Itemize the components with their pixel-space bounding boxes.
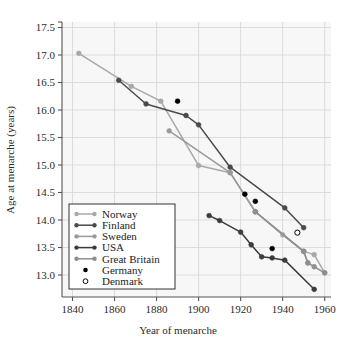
y-tick-label-8: 17.0	[36, 49, 56, 61]
legend-marker-left	[74, 245, 78, 249]
x-tick-label-3: 1900	[188, 303, 211, 315]
legend-marker-right	[92, 257, 96, 261]
data-point	[312, 252, 317, 257]
data-point	[175, 99, 180, 104]
data-point	[196, 122, 201, 127]
legend-marker-right	[92, 234, 96, 238]
data-point	[312, 287, 317, 292]
legend-label: Germany	[102, 264, 143, 276]
menarche-age-line-chart: 13.013.514.014.515.015.516.016.517.017.5…	[0, 0, 356, 347]
legend-label: Finland	[102, 219, 136, 231]
data-point	[253, 199, 258, 204]
data-point	[207, 213, 212, 218]
data-point	[144, 102, 149, 107]
data-point	[282, 206, 287, 211]
data-point	[158, 99, 163, 104]
data-point	[301, 225, 306, 230]
data-point	[253, 209, 258, 214]
y-tick-label-3: 14.5	[36, 186, 56, 198]
data-point	[242, 192, 247, 197]
legend-open-dot	[83, 279, 88, 284]
x-axis-title: Year of menarche	[139, 324, 217, 336]
data-point	[249, 242, 254, 247]
y-tick-label-5: 15.5	[36, 131, 56, 143]
data-point	[270, 246, 275, 251]
x-tick-label-4: 1920	[230, 303, 253, 315]
chart-figure: 13.013.514.014.515.015.516.016.517.017.5…	[0, 0, 356, 347]
data-point	[196, 163, 201, 168]
data-point	[305, 261, 310, 266]
legend-marker-left	[74, 223, 78, 227]
legend-label: USA	[102, 241, 124, 253]
y-tick-label-9: 17.5	[36, 21, 56, 33]
legend-marker-left	[74, 234, 78, 238]
legend-marker-left	[74, 212, 78, 216]
legend-filled-dot	[83, 268, 88, 273]
data-point	[282, 258, 287, 263]
series-denmark	[295, 230, 300, 235]
data-point	[322, 270, 327, 275]
y-tick-label-6: 16.0	[36, 104, 56, 116]
legend-marker-right	[92, 212, 96, 216]
legend-marker-right	[92, 245, 96, 249]
legend-label: Norway	[102, 208, 138, 220]
x-tick-label-5: 1940	[272, 303, 295, 315]
legend-marker-right	[92, 223, 96, 227]
y-tick-label-1: 13.5	[36, 241, 56, 253]
chart-legend[interactable]: NorwayFinlandSwedenUSAGreat BritainGerma…	[69, 204, 175, 289]
y-tick-label-2: 14.0	[36, 214, 56, 226]
data-point	[184, 113, 189, 118]
x-tick-label-2: 1880	[146, 303, 169, 315]
data-point	[76, 51, 81, 56]
x-tick-label-0: 1840	[62, 303, 85, 315]
legend-label: Denmark	[102, 275, 143, 287]
data-point	[270, 256, 275, 261]
y-tick-label-0: 13.0	[36, 269, 56, 281]
x-tick-label-6: 1960	[314, 303, 337, 315]
data-point	[228, 170, 233, 175]
data-point	[238, 230, 243, 235]
data-point	[217, 218, 222, 223]
data-point	[301, 249, 306, 254]
legend-marker-left	[74, 257, 78, 261]
y-axis-title: Age at menarche (years)	[4, 106, 17, 214]
data-point	[312, 264, 317, 269]
data-point	[259, 254, 264, 259]
x-tick-label-1: 1860	[104, 303, 127, 315]
data-point	[295, 230, 300, 235]
data-point	[228, 165, 233, 170]
data-point	[116, 78, 121, 83]
y-tick-label-4: 15.0	[36, 159, 56, 171]
legend-label: Great Britain	[102, 253, 160, 265]
data-point	[167, 129, 172, 134]
data-point	[129, 84, 134, 89]
legend-label: Sweden	[102, 230, 137, 242]
y-tick-label-7: 16.5	[36, 76, 56, 88]
